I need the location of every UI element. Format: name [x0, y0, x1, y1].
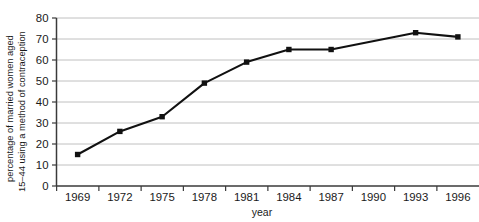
x-axis-title: year	[252, 206, 273, 218]
y-axis-tick-label: 0	[42, 180, 48, 192]
data-point-marker	[117, 129, 122, 134]
x-axis-tick-label: 1969	[65, 191, 90, 203]
x-axis-tick-label: 1978	[192, 191, 217, 203]
data-point-marker	[413, 30, 418, 35]
data-point-marker	[286, 47, 291, 52]
y-axis-tick-label: 50	[36, 75, 49, 87]
y-axis-tick-label: 20	[36, 138, 49, 150]
y-axis-title-line1: percentage of married women aged	[5, 35, 15, 182]
x-axis-tick-label: 1972	[107, 191, 132, 203]
y-axis-tick-label: 60	[36, 54, 49, 66]
data-point-marker	[328, 47, 333, 52]
x-axis-tick-label: 1981	[234, 191, 259, 203]
x-axis-tick-label: 1993	[403, 191, 428, 203]
y-axis-tick-label: 70	[36, 33, 49, 45]
line-chart-figure: 01020304050607080 1969197219751978198119…	[0, 0, 479, 222]
x-axis-tick-label: 1987	[318, 191, 343, 203]
data-point-marker	[75, 152, 80, 157]
y-axis-tick-label: 10	[36, 159, 49, 171]
chart-background	[0, 0, 479, 222]
x-axis-tick-label: 1996	[445, 191, 470, 203]
chart-canvas: 01020304050607080 1969197219751978198119…	[0, 0, 479, 222]
x-axis-tick-label: 1990	[361, 191, 386, 203]
x-axis-tick-label: 1975	[149, 191, 174, 203]
data-point-marker	[455, 34, 460, 39]
y-axis-tick-label: 30	[36, 117, 49, 129]
y-axis-tick-label: 40	[36, 96, 49, 108]
data-point-marker	[244, 59, 249, 64]
data-point-marker	[202, 80, 207, 85]
data-point-marker	[159, 114, 164, 119]
y-axis-tick-label: 80	[36, 12, 49, 24]
y-axis-title-line2: 15–44 using a method of contraception	[17, 31, 27, 192]
y-axis-tick-labels: 01020304050607080	[36, 12, 49, 192]
x-axis-tick-label: 1984	[276, 191, 301, 203]
